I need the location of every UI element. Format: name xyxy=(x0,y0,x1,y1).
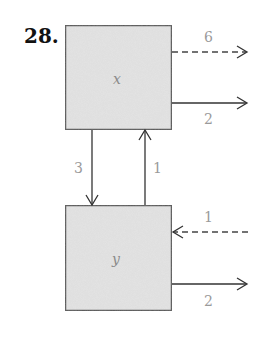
compartment-diagram: 28. x y 6 2 3 1 1 2 xyxy=(0,0,257,337)
flow-x-to-y: 3 xyxy=(74,130,98,205)
problem-number: 28. xyxy=(24,24,59,48)
flow-y-to-x: 1 xyxy=(139,130,162,205)
flow-x-out-solid: 2 xyxy=(172,97,247,127)
flow-y-in-dashed: 1 xyxy=(173,209,248,238)
box-y: y xyxy=(66,206,172,311)
flow-label-1-vertical: 1 xyxy=(153,160,162,176)
flow-x-out-dashed: 6 xyxy=(172,29,247,58)
flow-y-out-solid: 2 xyxy=(172,278,247,309)
flow-label-3: 3 xyxy=(74,160,83,176)
box-x-label: x xyxy=(113,71,121,87)
flow-label-6: 6 xyxy=(204,29,213,45)
flow-label-1-dashed: 1 xyxy=(204,209,213,225)
flow-label-2-bottom: 2 xyxy=(204,293,213,309)
box-y-label: y xyxy=(111,251,121,267)
flow-label-2-top: 2 xyxy=(204,111,213,127)
box-x: x xyxy=(66,26,172,130)
